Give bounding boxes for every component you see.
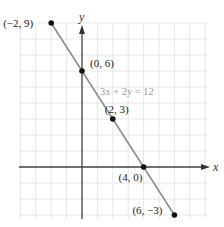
data-point-label: (6, −3): [132, 204, 162, 217]
data-point-marker: [79, 68, 85, 74]
equation-label: 3x + 2y = 12: [100, 86, 154, 97]
x-axis-label: x: [212, 160, 219, 174]
data-point-marker: [141, 164, 147, 170]
data-point-label: (−2, 9): [3, 17, 33, 30]
data-point-label: (0, 6): [90, 57, 114, 70]
line-graph: x y 3x + 2y = 12 (−2, 9)(0, 6)(2, 3)(4, …: [0, 0, 224, 227]
data-point-marker: [110, 116, 116, 122]
data-point-label: (4, 0): [119, 171, 143, 184]
data-point-label: (2, 3): [105, 103, 129, 116]
data-point-marker: [172, 212, 178, 218]
data-point-marker: [48, 20, 54, 26]
y-axis-label: y: [78, 10, 85, 24]
y-axis-arrow-icon: [79, 25, 85, 34]
data-points: (−2, 9)(0, 6)(2, 3)(4, 0)(6, −3): [3, 17, 177, 218]
